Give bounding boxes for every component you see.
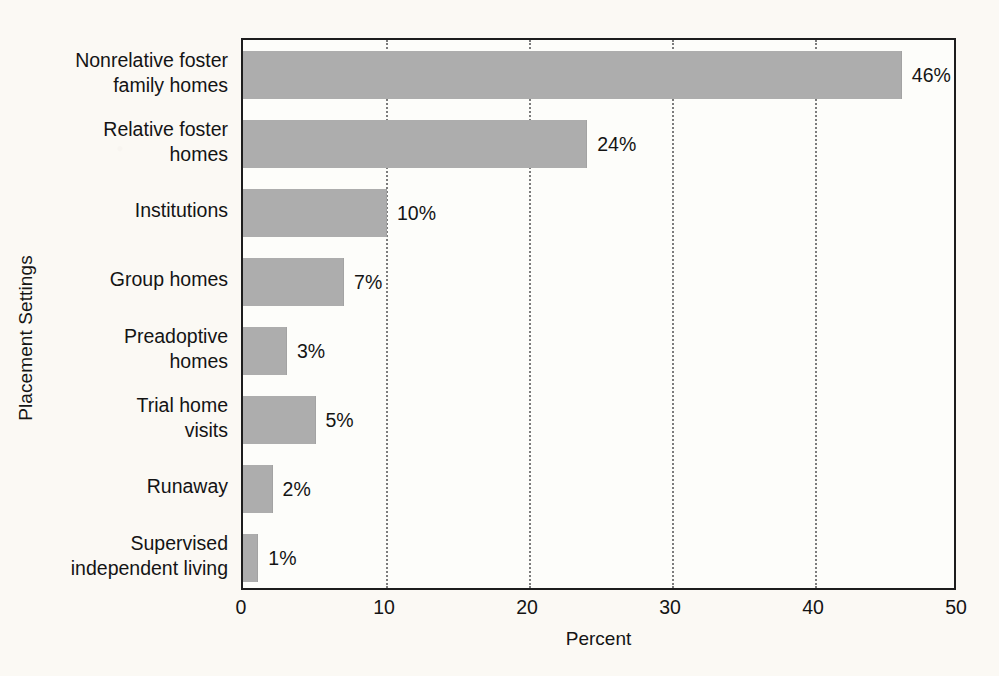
category-label: Preadoptive homes bbox=[124, 324, 228, 374]
category-label: Runaway bbox=[147, 474, 228, 499]
x-axis-title-text: Percent bbox=[566, 628, 631, 649]
x-tick-label-30: 30 bbox=[659, 596, 681, 619]
bar-value-label: 5% bbox=[326, 411, 354, 431]
category-label: Nonrelative foster family homes bbox=[75, 48, 228, 98]
category-label: Supervised independent living bbox=[71, 531, 228, 581]
category-label: Relative foster homes bbox=[103, 117, 228, 167]
gridline-40 bbox=[815, 40, 817, 588]
bar bbox=[243, 396, 316, 444]
y-axis-category-labels: Nonrelative foster family homesRelative … bbox=[36, 38, 236, 590]
x-axis-tick-labels: 01020304050 bbox=[241, 596, 956, 624]
bar-value-label: 46% bbox=[912, 66, 951, 86]
x-axis-title: Percent bbox=[241, 628, 956, 650]
bar bbox=[243, 465, 273, 513]
bar-chart-figure: Placement Settings Nonrelative foster fa… bbox=[0, 0, 999, 676]
bar-value-label: 1% bbox=[268, 549, 296, 569]
bar bbox=[243, 258, 344, 306]
bar-value-label: 10% bbox=[397, 204, 436, 224]
category-label: Trial home visits bbox=[137, 393, 228, 443]
x-tick-label-50: 50 bbox=[945, 596, 967, 619]
x-tick-label-0: 0 bbox=[236, 596, 247, 619]
bar bbox=[243, 534, 258, 582]
bar-value-label: 3% bbox=[297, 342, 325, 362]
bar bbox=[243, 51, 902, 99]
bar-value-label: 24% bbox=[597, 135, 636, 155]
y-axis-title-text: Placement Settings bbox=[15, 255, 37, 421]
plot-area: 46%24%10%7%3%5%2%1% bbox=[241, 38, 956, 590]
category-label: Group homes bbox=[110, 267, 228, 292]
bar-value-label: 2% bbox=[283, 480, 311, 500]
gridline-30 bbox=[672, 40, 674, 588]
x-tick-label-40: 40 bbox=[802, 596, 824, 619]
x-tick-label-10: 10 bbox=[373, 596, 395, 619]
bar bbox=[243, 120, 587, 168]
bar-value-label: 7% bbox=[354, 273, 382, 293]
bar bbox=[243, 189, 387, 237]
x-tick-label-20: 20 bbox=[516, 596, 538, 619]
bar bbox=[243, 327, 287, 375]
category-label: Institutions bbox=[135, 198, 228, 223]
